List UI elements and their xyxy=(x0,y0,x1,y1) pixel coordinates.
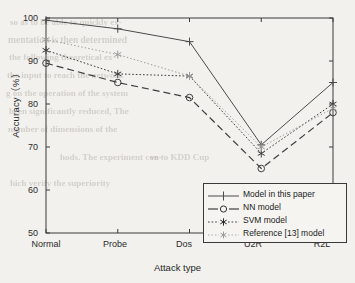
legend-key-model-in-this-paper xyxy=(207,188,240,200)
x-axis-label: Attack type xyxy=(0,262,355,273)
y-tick-label: 100 xyxy=(6,14,38,23)
legend-label: NN model xyxy=(240,201,281,213)
legend-item: Model in this paper xyxy=(207,187,342,200)
legend: Model in this paper NN model xyxy=(203,183,347,243)
y-tick-label: 60 xyxy=(6,186,38,195)
legend-label: SVM model xyxy=(240,214,287,226)
legend-key-reference-13-model xyxy=(207,227,240,239)
y-tick-label: 50 xyxy=(6,229,38,238)
legend-item: SVM model xyxy=(207,213,342,226)
x-tick-label: Normal xyxy=(20,240,72,249)
legend-label: Reference [13] model xyxy=(240,227,324,239)
legend-label: Model in this paper xyxy=(240,188,315,200)
legend-key-nn-model xyxy=(207,201,240,213)
legend-item: NN model xyxy=(207,200,342,213)
x-tick-label: Probe xyxy=(89,240,141,249)
y-tick-label: 70 xyxy=(6,143,38,152)
accuracy-line-chart: 100 90 80 70 60 50 Normal Probe Dos U2R … xyxy=(0,0,355,283)
legend-key-svm-model xyxy=(207,214,240,226)
y-axis-label: Accuracy（%） xyxy=(8,63,22,143)
legend-item: Reference [13] model xyxy=(207,226,342,239)
